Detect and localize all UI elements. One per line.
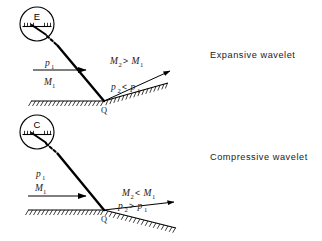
expansive-mach-left-sub: 2 [119, 61, 122, 68]
compressive-pressure-left: p [117, 201, 123, 211]
compressive-mach-relation: M 2 < M 1 [121, 188, 155, 200]
expansive-incident-wave [58, 46, 105, 102]
compressive-wavelet-caption: Compressive wavelet [210, 152, 308, 162]
compressive-mach-operator: < [135, 188, 140, 198]
compressive-incident-wave [58, 154, 105, 211]
expansive-mach-right-sub: 1 [140, 61, 143, 68]
expansive-mach-right: M [131, 56, 141, 66]
expansive-p1-subscript: 1 [51, 63, 54, 70]
compressive-wave-dashed-segment [46, 144, 57, 154]
compressive-p1-subscript: 1 [42, 174, 45, 181]
compressive-p1-label: p 1 [35, 169, 45, 181]
panel-compressive: C p 1 M 1 [20, 115, 176, 233]
expansive-wavelet-caption: Expansive wavelet [210, 50, 295, 60]
expansive-pressure-right-sub: 1 [137, 87, 140, 94]
compressive-pressure-operator: > [129, 201, 134, 211]
expansive-pressure-left: p [110, 82, 116, 92]
expansive-wall-upstream-hatching [29, 101, 104, 106]
expansive-m1-subscript: 1 [52, 82, 55, 89]
compressive-pressure-left-sub: 2 [125, 206, 128, 213]
expansive-source-letter: E [34, 11, 40, 22]
compressive-source-marker: C [20, 115, 54, 149]
expansive-mach-operator: > [123, 56, 128, 66]
compressive-pressure-relation: p 2 > p 1 [117, 201, 147, 213]
expansive-wave-dashed-segment [47, 36, 57, 45]
compressive-point-q-label: Q [101, 215, 107, 224]
expansive-p1-label: p 1 [44, 58, 54, 70]
panel-expansive: E p 1 M 1 [20, 7, 170, 115]
wavelet-reflection-diagram: E p 1 M 1 [0, 0, 322, 241]
compressive-wall-upstream-hatching [26, 210, 104, 215]
compressive-mach-left-sub: 2 [131, 193, 134, 200]
compressive-p1-symbol: p [35, 169, 41, 179]
compressive-wall-downstream-hatching [105, 211, 175, 233]
expansive-p1-symbol: p [44, 58, 50, 68]
compressive-m1-label: M 1 [34, 183, 46, 195]
compressive-source-letter: C [34, 119, 41, 130]
compressive-mach-left: M [121, 188, 131, 198]
expansive-m1-label: M 1 [43, 77, 55, 89]
expansive-pressure-left-sub: 2 [118, 87, 121, 94]
compressive-mach-right: M [143, 188, 153, 198]
expansive-point-q-label: Q [101, 106, 107, 115]
expansive-mach-left: M [109, 56, 119, 66]
expansive-pressure-right: p [130, 82, 136, 92]
compressive-pressure-right-sub: 1 [144, 206, 147, 213]
compressive-pressure-right: p [137, 201, 143, 211]
compressive-m1-subscript: 1 [43, 188, 46, 195]
expansive-pressure-operator: < [122, 82, 127, 92]
compressive-mach-right-sub: 1 [152, 193, 155, 200]
expansive-mach-relation: M 2 > M 1 [109, 56, 143, 68]
expansive-source-marker: E [20, 7, 54, 41]
